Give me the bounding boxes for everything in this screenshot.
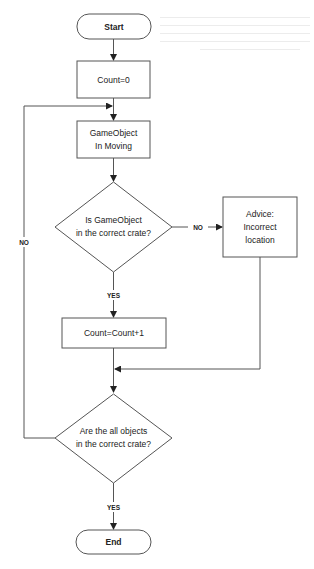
moving-label-line-1: GameObject xyxy=(90,128,138,138)
end-node: End xyxy=(76,530,151,554)
check-all-decision: Are the all objects in the correct crate… xyxy=(55,394,172,483)
moving-label-line-2: In Moving xyxy=(95,141,132,151)
check-crate-decision: Is GameObject in the correct crate? xyxy=(55,182,172,272)
edge-label-yes: YES xyxy=(107,504,121,511)
check-all-line-1: Are the all objects xyxy=(80,426,148,436)
check-crate-line-1: Is GameObject xyxy=(85,215,142,225)
check-all-line-2: in the correct crate? xyxy=(76,439,151,449)
check-crate-line-2: in the correct crate? xyxy=(76,228,151,238)
start-label: Start xyxy=(104,22,124,32)
moving-node: GameObject In Moving xyxy=(77,121,150,158)
edge-label-no: NO xyxy=(19,239,29,246)
start-node: Start xyxy=(77,14,151,39)
edge-advice-to-merge xyxy=(115,257,260,369)
advice-node: Advice: Incorrect location xyxy=(223,197,297,257)
flowchart: NO YES NO YES Start Count=0 GameObject I… xyxy=(0,0,314,569)
increment-label: Count=Count+1 xyxy=(84,328,144,338)
init-node: Count=0 xyxy=(77,61,150,98)
edge-label-yes: YES xyxy=(107,292,121,299)
advice-line-3: location xyxy=(245,235,275,245)
end-label: End xyxy=(105,537,121,547)
increment-node: Count=Count+1 xyxy=(62,318,166,348)
edge-label-no: NO xyxy=(193,224,203,231)
init-label: Count=0 xyxy=(97,75,130,85)
advice-line-1: Advice: xyxy=(246,209,274,219)
advice-line-2: Incorrect xyxy=(243,222,277,232)
